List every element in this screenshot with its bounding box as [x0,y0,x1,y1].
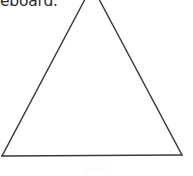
triangle-svg [0,0,193,176]
triangle-left-edge [2,0,92,156]
scan-smudge-mark [84,167,106,173]
triangle-base-edge [2,155,182,156]
document-page: eboard. [0,0,193,176]
triangle-right-edge [92,0,182,155]
triangle-figure [0,0,193,176]
